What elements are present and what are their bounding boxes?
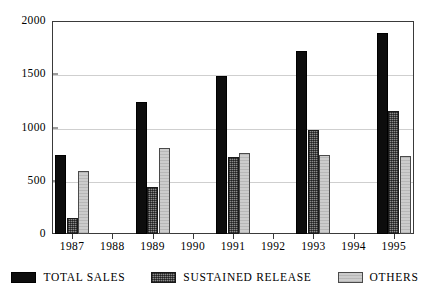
x-axis-tick	[313, 234, 314, 239]
y-axis-label: 1000	[0, 122, 46, 134]
bar	[308, 130, 319, 234]
x-axis-tick	[394, 234, 395, 239]
bar	[388, 111, 399, 234]
bar	[400, 156, 411, 234]
legend-item: TOTAL SALES	[11, 272, 125, 284]
bar	[147, 187, 158, 234]
y-axis-label: 2000	[0, 15, 46, 27]
bar	[377, 33, 388, 234]
bar	[67, 218, 78, 235]
y-axis-label: 0	[0, 228, 46, 240]
x-axis-tick	[273, 234, 274, 239]
legend-label: TOTAL SALES	[43, 272, 125, 284]
legend-label: OTHERS	[370, 272, 419, 284]
bar	[159, 148, 170, 234]
y-axis-label: 500	[0, 175, 46, 187]
x-axis-label: 1995	[366, 241, 422, 253]
bar	[216, 76, 227, 234]
gridline	[53, 129, 413, 130]
bar	[55, 155, 66, 234]
bar	[319, 155, 330, 234]
x-axis-tick	[233, 234, 234, 239]
y-axis-label: 1500	[0, 69, 46, 81]
x-axis-tick	[112, 234, 113, 239]
bar	[239, 153, 250, 234]
x-axis-tick	[354, 234, 355, 239]
gridline	[53, 75, 413, 76]
x-axis-tick	[72, 234, 73, 239]
chart-legend: TOTAL SALESSUSTAINED RELEASEOTHERS	[0, 272, 430, 284]
legend-item: SUSTAINED RELEASE	[151, 272, 311, 284]
y-axis-tick	[52, 127, 58, 128]
legend-swatch	[338, 272, 363, 283]
legend-swatch	[11, 272, 36, 283]
bar	[296, 51, 307, 234]
legend-swatch	[151, 272, 176, 283]
bar-chart: 0500100015002000 19871988198919901991199…	[0, 0, 430, 302]
legend-label: SUSTAINED RELEASE	[183, 272, 311, 284]
y-axis-tick	[52, 74, 58, 75]
bar	[78, 171, 89, 234]
legend-item: OTHERS	[338, 272, 419, 284]
x-axis-tick	[153, 234, 154, 239]
bar	[136, 102, 147, 234]
bar	[228, 157, 239, 234]
x-axis-tick	[193, 234, 194, 239]
